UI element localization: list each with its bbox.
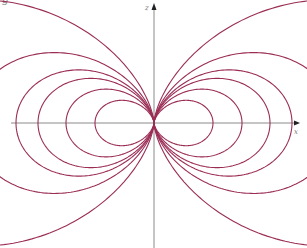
z-axis-arrow-icon [152,3,157,10]
z-axis-label: z [144,4,149,12]
x-axis-label: x [294,128,298,136]
dipole-field-diagram: x z [0,0,307,248]
axes: x z [11,3,300,248]
x-axis-arrow-icon [294,121,300,126]
